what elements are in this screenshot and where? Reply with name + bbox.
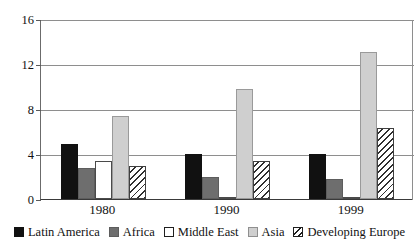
legend-item-middle-east: Middle East xyxy=(164,226,239,239)
bar-1980-latin-america xyxy=(61,144,78,199)
legend-swatch-developing-europe-icon xyxy=(293,227,303,237)
legend-label-middle-east: Middle East xyxy=(178,226,239,239)
legend-swatch-asia-icon xyxy=(248,227,258,237)
x-axis-labels: 1980 1990 1999 xyxy=(40,203,413,216)
x-tick-label-1999: 1999 xyxy=(289,203,413,216)
y-tick-label-0: 0 xyxy=(28,194,34,207)
bar-1980-developing-europe xyxy=(129,166,146,199)
legend-item-developing-europe: Developing Europe xyxy=(293,226,405,239)
bar-group-1980 xyxy=(41,20,165,199)
bar-chart: 0 4 8 12 16 xyxy=(0,0,419,248)
y-tick-label-16: 16 xyxy=(22,14,35,27)
plot-area xyxy=(40,20,413,200)
bar-1990-developing-europe xyxy=(253,161,270,199)
y-tick-label-4: 4 xyxy=(28,149,34,162)
bar-1999-middle-east xyxy=(343,197,360,199)
bar-1999-developing-europe xyxy=(377,128,394,199)
bar-1990-latin-america xyxy=(185,154,202,199)
bar-1990-africa xyxy=(202,177,219,200)
x-tick-label-1990: 1990 xyxy=(164,203,288,216)
bar-1980-middle-east xyxy=(95,161,112,199)
bar-1980-africa xyxy=(78,168,95,200)
legend-label-latin-america: Latin America xyxy=(28,226,100,239)
bar-1999-asia xyxy=(360,52,377,199)
bar-1999-africa xyxy=(326,179,343,199)
chart-legend: Latin America Africa Middle East Asia De… xyxy=(0,226,419,239)
legend-label-developing-europe: Developing Europe xyxy=(307,226,405,239)
bar-1980-asia xyxy=(112,116,129,199)
legend-swatch-latin-america-icon xyxy=(14,227,24,237)
bar-group-1990 xyxy=(165,20,289,199)
y-tick-mark-0 xyxy=(36,200,41,201)
bar-group-1999 xyxy=(289,20,413,199)
bar-1990-middle-east xyxy=(219,197,236,199)
bar-1999-latin-america xyxy=(309,154,326,199)
legend-label-asia: Asia xyxy=(262,226,285,239)
legend-swatch-middle-east-icon xyxy=(164,227,174,237)
legend-swatch-africa-icon xyxy=(109,227,119,237)
bar-1990-asia xyxy=(236,89,253,199)
y-tick-label-8: 8 xyxy=(28,104,34,117)
legend-item-africa: Africa xyxy=(109,226,155,239)
legend-label-africa: Africa xyxy=(123,226,155,239)
legend-item-latin-america: Latin America xyxy=(14,226,100,239)
y-tick-label-12: 12 xyxy=(22,59,35,72)
bar-groups xyxy=(41,20,413,199)
x-tick-label-1980: 1980 xyxy=(40,203,164,216)
legend-item-asia: Asia xyxy=(248,226,285,239)
